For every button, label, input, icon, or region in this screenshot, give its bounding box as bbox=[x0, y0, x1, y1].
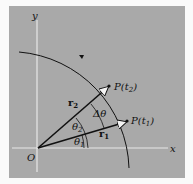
theta2-label: θ2 bbox=[72, 121, 83, 134]
point-p1-dot bbox=[125, 119, 128, 122]
p2-label: P(t2) bbox=[113, 81, 137, 94]
delta-theta-label: Δθ bbox=[92, 108, 106, 119]
trajectory-arc bbox=[19, 52, 129, 168]
origin-label: O bbox=[27, 152, 35, 163]
point-p2-dot bbox=[107, 84, 110, 87]
arc-direction-arrow-icon bbox=[79, 55, 84, 59]
r1-label: r1 bbox=[99, 128, 109, 141]
y-axis-label: y bbox=[31, 10, 38, 21]
x-axis-label: x bbox=[170, 143, 176, 154]
r2-label: r2 bbox=[68, 97, 78, 110]
polar-motion-diagram: y x O P(t2) P(t1) r2 r1 θ2 θ1 Δθ bbox=[0, 0, 193, 184]
p1-label: P(t1) bbox=[130, 115, 154, 128]
